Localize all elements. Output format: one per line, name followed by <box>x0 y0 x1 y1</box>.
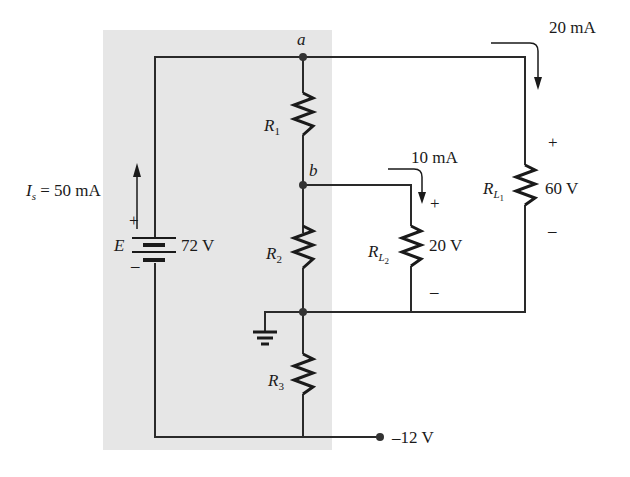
r1-label: R1 <box>264 117 280 137</box>
r2-label: R2 <box>266 245 282 265</box>
terminal-voltage: –12 V <box>392 429 434 446</box>
node-b-dot <box>299 181 307 189</box>
rl2-sub: L2 <box>378 251 389 263</box>
rl1-current-arrow <box>491 43 538 78</box>
rl1-label: RL1 <box>483 180 504 203</box>
source-plus: + <box>129 212 139 229</box>
rl2-current-arrow <box>388 169 422 193</box>
rl1-plus: + <box>548 134 558 151</box>
wire-rl1-bottom <box>303 205 525 312</box>
resistor-rl2 <box>402 226 421 266</box>
terminal-dot <box>376 433 384 441</box>
source-minus: – <box>131 257 140 274</box>
r3-label: R3 <box>268 372 284 392</box>
rl1-sub: L1 <box>493 188 504 200</box>
source-voltage: 72 V <box>181 237 214 254</box>
source-current-label: Is = 50 mA <box>26 182 101 202</box>
voltage-divider-circuit: a b Is = 50 mA + E 72 V – R1 R2 R3 20 mA… <box>0 0 630 477</box>
arrow-down-icon <box>418 192 426 204</box>
rl2-label: RL2 <box>368 243 389 266</box>
node-ground-dot <box>299 308 307 316</box>
node-b-label: b <box>309 162 318 179</box>
resistor-rl1 <box>516 165 535 205</box>
rl1-minus: – <box>548 222 557 239</box>
node-a-label: a <box>297 31 306 48</box>
rl1-current: 20 mA <box>549 19 596 36</box>
circuit-svg <box>0 0 630 477</box>
node-a-dot <box>299 53 307 61</box>
source-name: E <box>114 237 124 254</box>
rl2-voltage: 20 V <box>429 237 462 254</box>
rl2-plus: + <box>430 195 440 212</box>
arrow-down-icon <box>534 77 542 90</box>
rl2-minus: – <box>430 283 439 300</box>
rl1-voltage: 60 V <box>545 180 578 197</box>
rl2-current: 10 mA <box>411 149 458 166</box>
